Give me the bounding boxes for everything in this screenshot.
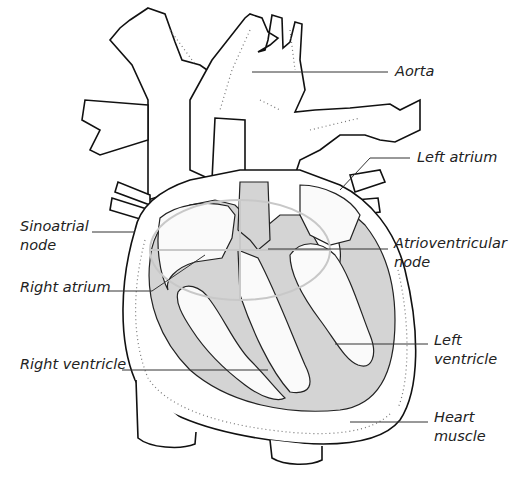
- label-heart-muscle-line1: Heart: [434, 408, 486, 427]
- label-left-ventricle-line2: ventricle: [434, 350, 497, 369]
- pulmonary-artery-right-branch: [82, 100, 150, 222]
- ghost-overlay: [150, 200, 330, 300]
- label-sinoatrial-node: Sinoatrial node: [20, 217, 89, 255]
- label-sinoatrial-line2: node: [20, 236, 89, 255]
- label-left-atrium: Left atrium: [417, 148, 497, 167]
- label-right-ventricle: Right ventricle: [20, 355, 126, 374]
- label-left-ventricle-line1: Left: [434, 331, 497, 350]
- aorta: [190, 14, 420, 195]
- label-sinoatrial-line1: Sinoatrial: [20, 217, 89, 236]
- label-atrioventricular-line2: node: [394, 253, 507, 272]
- label-left-ventricle: Left ventricle: [434, 331, 497, 369]
- label-right-atrium: Right atrium: [20, 278, 111, 297]
- label-atrioventricular-node: Atrioventricular node: [394, 234, 507, 272]
- label-heart-muscle: Heart muscle: [434, 408, 486, 446]
- label-atrioventricular-line1: Atrioventricular: [394, 234, 507, 253]
- label-aorta: Aorta: [395, 62, 434, 81]
- label-heart-muscle-line2: muscle: [434, 427, 486, 446]
